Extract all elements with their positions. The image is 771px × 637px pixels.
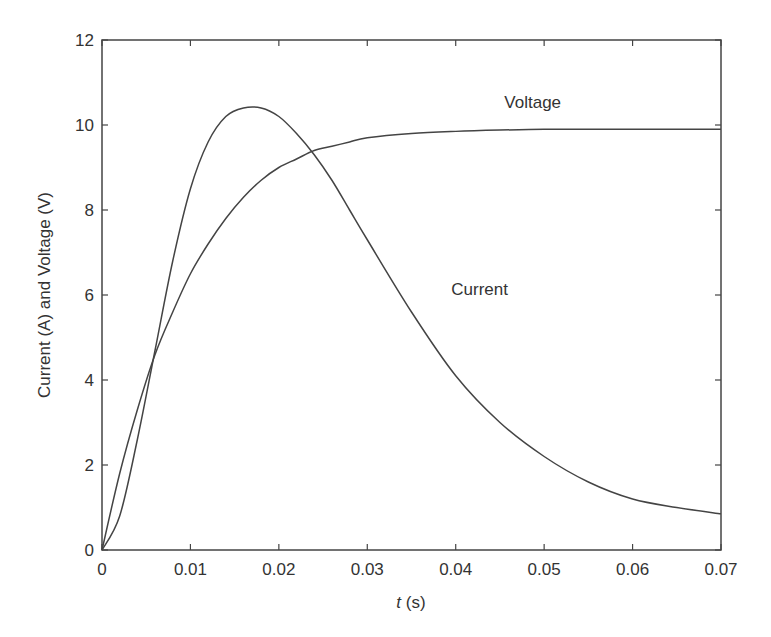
annotation-voltage: Voltage xyxy=(504,93,561,112)
annotations: VoltageCurrent xyxy=(451,93,561,299)
y-tick-label: 4 xyxy=(85,371,94,390)
series-current-line xyxy=(102,107,721,550)
series-lines xyxy=(102,107,721,550)
x-tick-label: 0.07 xyxy=(704,560,737,579)
y-tick-label: 0 xyxy=(85,541,94,560)
y-tick-label: 2 xyxy=(85,456,94,475)
plot-border xyxy=(102,40,721,550)
annotation-current: Current xyxy=(451,280,508,299)
y-tick-label: 10 xyxy=(75,116,94,135)
y-tick-label: 12 xyxy=(75,31,94,50)
y-axis-ticks: 024681012 xyxy=(75,31,721,560)
x-tick-label: 0.06 xyxy=(616,560,649,579)
y-axis-label: Current (A) and Voltage (V) xyxy=(35,192,54,398)
y-tick-label: 6 xyxy=(85,286,94,305)
x-tick-label: 0.05 xyxy=(528,560,561,579)
x-tick-label: 0.04 xyxy=(439,560,472,579)
line-chart: 00.010.020.030.040.050.060.07 024681012 … xyxy=(0,0,771,637)
x-tick-label: 0 xyxy=(97,560,106,579)
x-tick-label: 0.03 xyxy=(351,560,384,579)
x-tick-label: 0.02 xyxy=(262,560,295,579)
x-axis-label: t (s) xyxy=(396,593,425,612)
plot-frame xyxy=(102,40,721,550)
series-voltage-line xyxy=(102,129,721,550)
x-tick-label: 0.01 xyxy=(174,560,207,579)
y-tick-label: 8 xyxy=(85,201,94,220)
x-axis-ticks: 00.010.020.030.040.050.060.07 xyxy=(97,40,737,579)
